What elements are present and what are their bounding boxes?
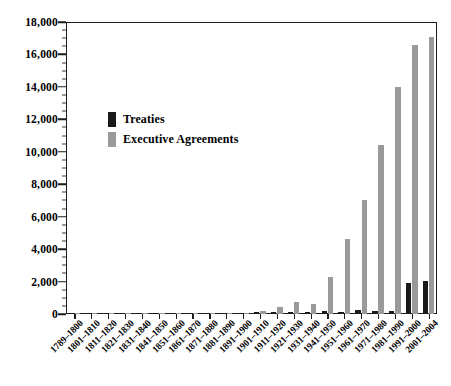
legend-swatch-icon [108,132,116,147]
bar-executive-agreements [294,302,299,314]
bar-group [235,22,252,314]
bar-group [285,22,302,314]
y-axis-major-tick [58,216,66,218]
y-axis-major-tick [58,281,66,283]
treaties-vs-executive-agreements-chart: 02,0004,0006,0008,00010,00012,00014,0001… [0,0,451,386]
bar-treaties [406,283,411,314]
bar-group [218,22,235,314]
bar-executive-agreements [311,304,316,314]
bar-series-layer [66,22,437,314]
bar-treaties [423,281,428,314]
y-axis-tick-label: 16,000 [25,48,58,60]
bar-executive-agreements [378,145,383,314]
y-axis-major-tick [58,313,66,315]
bar-executive-agreements [277,307,282,314]
bar-group [167,22,184,314]
bar-group [336,22,353,314]
bar-group [133,22,150,314]
y-axis-major-tick [58,248,66,250]
bar-group [319,22,336,314]
bar-group [420,22,437,314]
x-axis-label-group: 1789–18001801–18101811–18201821–18301831… [66,314,437,386]
legend-swatch-icon [108,112,116,127]
bar-group [117,22,134,314]
y-axis-tick-label: 2,000 [31,276,58,288]
bar-group [100,22,117,314]
y-axis-major-tick [58,54,66,56]
y-axis-tick-label: 6,000 [31,211,58,223]
y-axis-major-tick [58,21,66,23]
bar-group [83,22,100,314]
bar-group [66,22,83,314]
bar-group [252,22,269,314]
y-axis-tick-label: 18,000 [25,16,58,28]
bar-group [302,22,319,314]
bar-group [403,22,420,314]
bar-group [201,22,218,314]
bar-executive-agreements [429,37,434,314]
bar-executive-agreements [362,200,367,314]
chart-legend: TreatiesExecutive Agreements [108,112,238,152]
y-axis-tick-label: 10,000 [25,146,58,158]
y-axis-major-tick-group [58,22,66,314]
bar-group [268,22,285,314]
bar-executive-agreements [328,277,333,314]
bar-executive-agreements [412,45,417,314]
bar-group [184,22,201,314]
bar-executive-agreements [395,87,400,314]
bar-executive-agreements [345,239,350,314]
y-axis-major-tick [58,86,66,88]
legend-item: Executive Agreements [108,132,238,147]
y-axis-label-group: 02,0004,0006,0008,00010,00012,00014,0001… [0,22,58,314]
bar-group [353,22,370,314]
y-axis-major-tick [58,151,66,153]
bar-group [150,22,167,314]
y-axis-major-tick [58,183,66,185]
y-axis-tick-label: 4,000 [31,243,58,255]
y-axis-major-tick [58,119,66,121]
bar-group [370,22,387,314]
y-axis-tick-label: 8,000 [31,178,58,190]
bar-group [386,22,403,314]
legend-item: Treaties [108,112,238,127]
legend-label: Treaties [123,112,165,127]
legend-label: Executive Agreements [123,132,238,147]
y-axis-tick-label: 14,000 [25,81,58,93]
y-axis-tick-label: 12,000 [25,113,58,125]
